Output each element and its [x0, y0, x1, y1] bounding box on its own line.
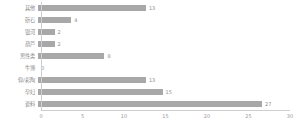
bar-row: 仰/彩陶 13 [0, 74, 298, 86]
bar-track: 13 [38, 2, 298, 14]
bar-value-label: 4 [71, 17, 77, 23]
x-tick-label: 25 [245, 113, 251, 120]
bar-row: 其他 13 [0, 2, 298, 14]
bar-track: 0 [38, 62, 298, 74]
bar [38, 89, 163, 95]
bar-row: 斫石 4 [0, 14, 298, 26]
bar [38, 101, 262, 107]
bar-row: 葫芦 2 [0, 38, 298, 50]
bar-track: 27 [38, 98, 298, 110]
x-tick-label: 30 [287, 113, 293, 120]
category-label: 男性类 [0, 53, 38, 59]
bar-track: 8 [38, 50, 298, 62]
x-axis-line [41, 110, 290, 111]
bar-value-label: 2 [55, 29, 61, 35]
bar-track: 4 [38, 14, 298, 26]
bar-row: 瓷料 27 [0, 98, 298, 110]
bar-track: 2 [38, 38, 298, 50]
bar-track: 2 [38, 26, 298, 38]
bar-value-label: 15 [163, 89, 172, 95]
bar-value-label: 27 [262, 101, 271, 107]
x-axis-tick-labels: 0 5 10 15 20 25 30 [41, 113, 290, 127]
bar [38, 77, 146, 83]
category-label: 瓷料 [0, 101, 38, 107]
bar-track: 15 [38, 86, 298, 98]
category-label: 银河 [0, 29, 38, 35]
category-label: 孕妇 [0, 89, 38, 95]
x-tick-label: 20 [204, 113, 210, 120]
bar-value-label: 2 [55, 41, 61, 47]
category-label: 牛博 [0, 65, 38, 71]
y-axis-line [41, 2, 42, 110]
bar-value-label: 8 [104, 53, 110, 59]
category-label: 其他 [0, 5, 38, 11]
category-label: 仰/彩陶 [0, 77, 38, 83]
bar-row: 男性类 8 [0, 50, 298, 62]
x-tick-label: 5 [81, 113, 84, 120]
x-tick-label: 10 [121, 113, 127, 120]
x-tick-label: 15 [162, 113, 168, 120]
bar-row: 牛博 0 [0, 62, 298, 74]
plot-area: 其他 13 斫石 4 银河 2 葫芦 2 [0, 2, 298, 110]
bar-value-label: 13 [146, 77, 155, 83]
bar [38, 17, 71, 23]
bar-row: 孕妇 15 [0, 86, 298, 98]
category-label: 葫芦 [0, 41, 38, 47]
bar-row: 银河 2 [0, 26, 298, 38]
bar [38, 5, 146, 11]
category-label: 斫石 [0, 17, 38, 23]
bar-track: 13 [38, 74, 298, 86]
x-tick-label: 0 [39, 113, 42, 120]
bar-value-label: 13 [146, 5, 155, 11]
bar [38, 53, 104, 59]
bar-chart: 其他 13 斫石 4 银河 2 葫芦 2 [0, 0, 298, 135]
